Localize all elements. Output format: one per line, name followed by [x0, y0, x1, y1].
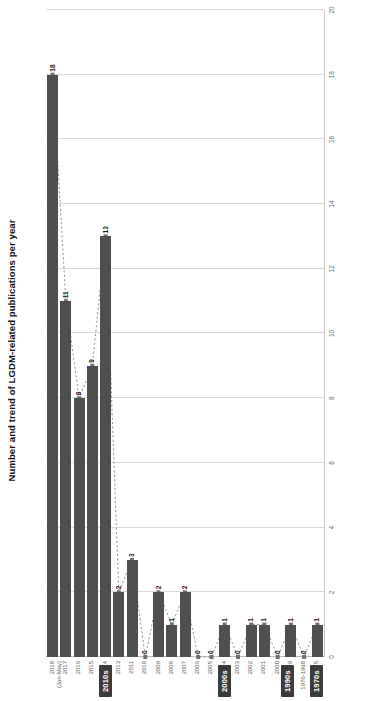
value-tick-label: 20: [328, 6, 335, 13]
bar-row: 0: [299, 10, 310, 657]
category-label: 2010: [141, 661, 148, 701]
category-label: 2011: [128, 661, 135, 701]
category-label: 2009: [155, 661, 162, 701]
bar: [180, 592, 191, 657]
value-tick-label: 10: [328, 330, 335, 337]
decade-badge: 2000s: [218, 665, 231, 697]
bar-value-label: 0: [232, 650, 243, 654]
bar-row: 0: [193, 10, 204, 657]
bar-row: 1: [219, 10, 230, 657]
bar-value-label: 2: [179, 586, 190, 590]
bar-row: 2: [180, 10, 191, 657]
value-tick-label: 0: [328, 655, 335, 659]
category-label: 2001: [260, 661, 267, 701]
bar-value-label: 0: [272, 650, 283, 654]
bar: [219, 625, 230, 657]
bar: [100, 236, 111, 657]
bar-row: 2: [153, 10, 164, 657]
category-label: 2006: [194, 661, 201, 701]
bar: [246, 625, 257, 657]
value-tick-label: 12: [328, 265, 335, 272]
bar-value-label: 18: [47, 64, 58, 71]
chart-canvas: Number and trend of LGDM-related publica…: [0, 0, 391, 701]
decade-badge: 1990s: [281, 665, 294, 697]
bar-row: 1: [285, 10, 296, 657]
decade-gap-ellipsis: …: [306, 678, 315, 687]
bar: [47, 75, 58, 657]
bar-value-label: 1: [219, 618, 230, 622]
bar-value-label: 1: [245, 618, 256, 622]
bar-value-label: 1: [285, 618, 296, 622]
category-label: 2018 (Jan-May): [49, 661, 63, 701]
value-tick-label: 2: [328, 591, 335, 595]
bar-value-label: 9: [86, 359, 97, 363]
value-tick-label: 4: [328, 526, 335, 530]
category-label: 2008: [168, 661, 175, 701]
category-label: 2017: [62, 661, 69, 701]
bar-value-label: 2: [153, 586, 164, 590]
bar-value-label: 8: [73, 392, 84, 396]
bar-row: 9: [87, 10, 98, 657]
category-label: 2013: [115, 661, 122, 701]
bar-row: 0: [140, 10, 151, 657]
bar: [113, 592, 124, 657]
bar-value-label: 0: [139, 650, 150, 654]
bar-row: 1: [246, 10, 257, 657]
bar: [60, 301, 71, 657]
value-tick-label: 18: [328, 71, 335, 78]
category-label: 2007: [181, 661, 188, 701]
value-tick-label: 8: [328, 396, 335, 400]
bar-value-label: 2: [113, 586, 124, 590]
category-axis-line: [324, 10, 325, 657]
bar: [259, 625, 270, 657]
bar: [87, 366, 98, 657]
value-tick-label: 16: [328, 136, 335, 143]
bar-value-label: 3: [126, 553, 137, 557]
bar: [166, 625, 177, 657]
bar-value-label: 0: [298, 650, 309, 654]
bar-row: 1: [166, 10, 177, 657]
bar-value-label: 0: [192, 650, 203, 654]
bar-row: 0: [272, 10, 283, 657]
bar-row: 3: [127, 10, 138, 657]
decade-badge: 2010s: [99, 665, 112, 697]
bar-row: 8: [74, 10, 85, 657]
category-label: 2000: [274, 661, 281, 701]
bar-row: 1: [312, 10, 323, 657]
chart-title: Number and trend of LGDM-related publica…: [0, 0, 17, 701]
bar-row: 0: [206, 10, 217, 657]
value-tick-label: 14: [328, 200, 335, 207]
bar-value-label: 0: [205, 650, 216, 654]
bar-row: 18: [47, 10, 58, 657]
category-label: 2015: [88, 661, 95, 701]
bar-row: 2: [113, 10, 124, 657]
category-label: 2003: [234, 661, 241, 701]
category-label: 2005: [207, 661, 214, 701]
bar-value-label: 1: [311, 618, 322, 622]
rotated-chart-wrapper: Number and trend of LGDM-related publica…: [0, 0, 391, 701]
category-label: 2002: [247, 661, 254, 701]
bar: [285, 625, 296, 657]
bar-value-label: 1: [166, 618, 177, 622]
bar-value-label: 11: [60, 291, 71, 298]
plot-area: 101011010021203213981118: [46, 10, 324, 657]
bar-row: 0: [232, 10, 243, 657]
bar-row: 1: [259, 10, 270, 657]
bar: [153, 592, 164, 657]
category-label: 2016: [75, 661, 82, 701]
bar-row: 11: [60, 10, 71, 657]
bar-value-label: 1: [258, 618, 269, 622]
bar: [127, 560, 138, 657]
bar: [312, 625, 323, 657]
bar-value-label: 13: [100, 226, 111, 233]
bar: [74, 398, 85, 657]
value-tick-label: 6: [328, 461, 335, 465]
bar-row: 13: [100, 10, 111, 657]
